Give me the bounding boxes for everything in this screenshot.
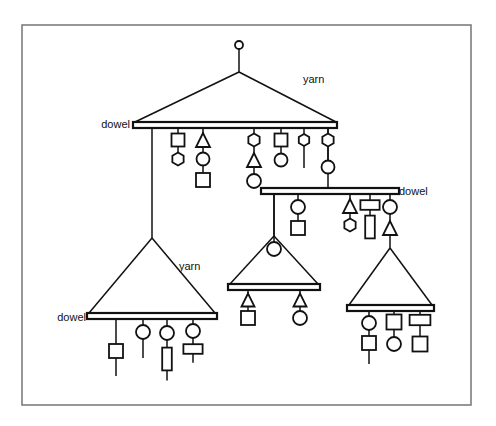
shape-square xyxy=(362,336,376,350)
hanger-strand xyxy=(172,128,185,166)
shape-circle xyxy=(247,174,261,188)
shape-square xyxy=(291,221,305,235)
shape-square xyxy=(109,344,123,358)
shape-circle xyxy=(267,242,281,256)
hanger-strand xyxy=(275,128,288,167)
shape-hexagon xyxy=(248,134,259,147)
mobile-diagram-canvas: yarndoweldowelyarndowel xyxy=(0,0,496,426)
shape-circle xyxy=(136,325,150,339)
label-dowel-left: dowel xyxy=(57,311,86,323)
label-dowel-top: dowel xyxy=(101,118,130,130)
shape-circle xyxy=(197,153,210,166)
shape-circle xyxy=(275,154,288,167)
shape-circle xyxy=(383,200,397,214)
shape-rect-wide xyxy=(410,315,431,325)
shape-square xyxy=(172,134,185,147)
shape-rect-tall xyxy=(365,216,375,239)
label-dowel-right: dowel xyxy=(399,185,428,197)
mobile-diagram-root: yarndoweldowelyarndowel xyxy=(0,0,496,426)
shape-circle xyxy=(362,316,376,330)
shape-hexagon xyxy=(172,153,183,166)
dowel-bar xyxy=(261,188,399,194)
shape-circle xyxy=(186,324,200,338)
shape-circle xyxy=(291,200,305,214)
shape-rect-wide xyxy=(360,200,379,210)
shape-circle xyxy=(387,337,401,351)
diagram-frame xyxy=(22,25,471,405)
shape-hexagon xyxy=(299,134,309,146)
dowel-bar xyxy=(133,122,337,128)
shape-circle xyxy=(160,326,174,340)
shape-circle xyxy=(322,161,335,174)
dowel-bar xyxy=(347,305,434,311)
shape-square xyxy=(275,134,288,147)
hanger-strand xyxy=(160,319,174,380)
shape-rect-wide xyxy=(183,344,202,354)
shape-square xyxy=(241,311,255,325)
shape-hexagon xyxy=(344,219,355,232)
shape-square xyxy=(387,315,402,330)
shape-circle xyxy=(293,311,307,325)
hanger-knob-icon xyxy=(235,41,243,49)
shape-rect-tall xyxy=(162,348,172,371)
shape-square xyxy=(413,337,428,352)
label-yarn-left: yarn xyxy=(179,260,200,272)
dowel-bar xyxy=(87,313,217,319)
dowel-bar xyxy=(228,284,320,290)
shape-square xyxy=(196,173,210,187)
shape-hexagon xyxy=(322,134,333,147)
label-yarn-top: yarn xyxy=(303,73,324,85)
